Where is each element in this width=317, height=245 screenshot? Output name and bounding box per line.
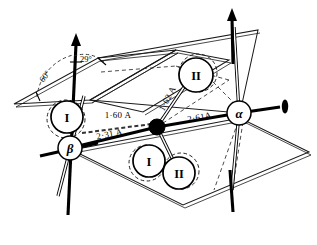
distance-label-2-61: 2·61A [186, 110, 212, 125]
group-II-lower: II [163, 157, 195, 189]
axis-beta-up-arrow-icon [71, 33, 81, 46]
molecular-geometry-diagram: I II I II β α 1·60 A 2·31 A 1·62 A 2·61 [0, 0, 317, 245]
axis-alpha-up-arrow-icon [227, 8, 237, 21]
distance-label-1-60: 1·60 A [105, 110, 132, 120]
atom-alpha: α [227, 101, 251, 125]
atom-alpha-label: α [235, 106, 243, 121]
group-II-upper-label: II [191, 69, 201, 83]
atom-beta: β [58, 136, 82, 160]
axis-alpha-vertical-rod [232, 18, 233, 64]
group-II-upper: II [179, 58, 213, 92]
angle-label-60: 60° [37, 68, 52, 84]
group-I-lower-label: I [147, 155, 152, 169]
group-I-upper-left-label: I [65, 111, 70, 125]
angle-label-29: 29° [80, 54, 92, 64]
group-I-lower: I [133, 145, 165, 177]
dashed-group-II-to-alpha [213, 82, 236, 105]
atom-beta-label: β [66, 141, 74, 156]
atom-center-dot [149, 119, 165, 135]
group-I-upper-left: I [51, 101, 83, 133]
hollow-rod-alpha-up-inner [234, 27, 239, 113]
figure-root: I II I II β α 1·60 A 2·31 A 1·62 A 2·61 [0, 0, 317, 245]
axis-alpha-right-arrow-icon [282, 100, 288, 114]
group-II-lower-label: II [174, 167, 184, 181]
